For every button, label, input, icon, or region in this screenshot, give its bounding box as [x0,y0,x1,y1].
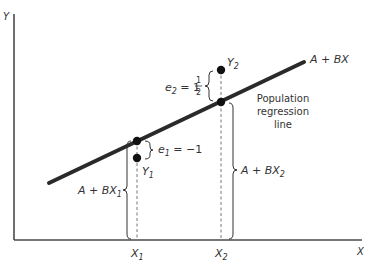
x1-tick-label: X1 [130,247,144,262]
regression-line-caption-1: Population [257,93,310,104]
fitted-x2-brace-icon [229,103,237,239]
e2-label: e2 = 1 [165,81,200,96]
y-axis-label: Y [3,11,10,22]
y2-label: Y2 [227,56,239,71]
e2-brace-icon [205,71,213,101]
x2-tick-label: X2 [214,247,228,262]
regression-line-label: A + BX [309,53,349,66]
e2-fraction-denominator: 2 [196,88,201,97]
observation-point-y2 [217,66,225,74]
y1-label: Y1 [142,165,154,180]
fitted-x1-label: A + BX1 [77,184,122,199]
fitted-point-x1 [133,137,141,145]
fitted-x2-label: A + BX2 [240,164,285,179]
regression-line-caption-3: line [274,119,292,130]
x-axis-label: X [356,246,365,257]
e1-brace-icon [145,141,153,159]
fitted-x1-brace-icon [123,141,131,239]
e1-label: e1 = −1 [158,143,202,158]
regression-diagram: Y X A + BX Population regression line Y1… [0,0,372,269]
e2-fraction-numerator: 1 [196,76,201,85]
observation-point-y1 [133,154,141,162]
fitted-point-x2 [217,98,225,106]
regression-line-caption-2: regression [257,106,309,117]
